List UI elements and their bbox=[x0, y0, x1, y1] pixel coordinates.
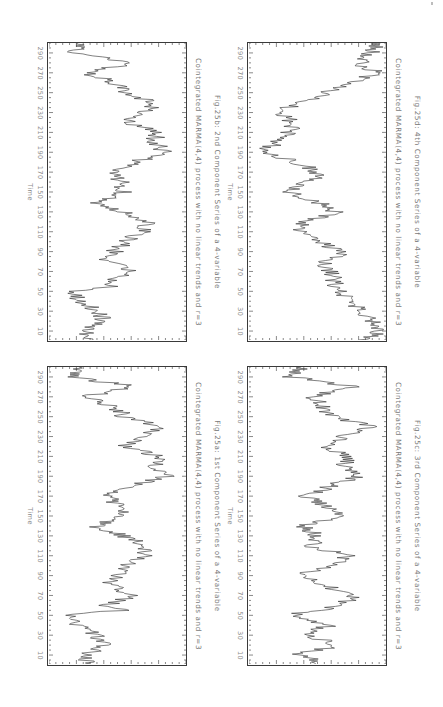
x-tick-label: 250 bbox=[236, 86, 244, 100]
x-tick-label: 130 bbox=[36, 205, 44, 219]
x-tick-label: 90 bbox=[36, 247, 44, 256]
figure-title: Fig.25b: 2nd Component Series of a 4-var… bbox=[213, 42, 222, 342]
x-tick-label: 210 bbox=[36, 126, 44, 140]
rotated-figure: Fig.25b: 2nd Component Series of a 4-var… bbox=[22, 42, 222, 342]
x-tick-label: 110 bbox=[36, 549, 44, 563]
x-tick-label: 50 bbox=[236, 287, 244, 296]
x-tick-label: 290 bbox=[236, 371, 244, 385]
x-tick-label: 210 bbox=[36, 450, 44, 464]
x-tick-label: 270 bbox=[236, 390, 244, 404]
x-tick-label: 130 bbox=[236, 205, 244, 219]
rotated-figure: Fig.25d: 4th Component Series of a 4-var… bbox=[222, 42, 422, 342]
x-tick-label: 190 bbox=[36, 470, 44, 484]
x-tick-label: 50 bbox=[236, 611, 244, 620]
x-tick-label: 10 bbox=[236, 651, 244, 660]
x-axis-label: Time bbox=[226, 366, 234, 666]
x-tick-label: 70 bbox=[236, 591, 244, 600]
x-tick-label: 70 bbox=[36, 591, 44, 600]
plot-area bbox=[47, 366, 187, 666]
x-tick-label: 30 bbox=[36, 307, 44, 316]
x-tick-label: 130 bbox=[236, 529, 244, 543]
x-tick-label: 270 bbox=[36, 66, 44, 80]
x-tick-label: 250 bbox=[36, 410, 44, 424]
x-tick-label: 230 bbox=[36, 430, 44, 444]
x-tick-label: 170 bbox=[36, 490, 44, 504]
x-axis-label: Time bbox=[26, 42, 34, 342]
page-corner-mark bbox=[431, 2, 433, 5]
x-tick-label: 290 bbox=[36, 371, 44, 385]
x-tick-label: 190 bbox=[36, 146, 44, 160]
figure-subtitle: Cointegrated MARMA(4,4) process with no … bbox=[194, 42, 203, 342]
x-tick-labels: 1030507090110130150170190210230250270290 bbox=[234, 366, 244, 666]
figure-title: Fig.25d: 4th Component Series of a 4-var… bbox=[413, 42, 422, 342]
x-tick-label: 190 bbox=[236, 146, 244, 160]
line-series bbox=[49, 367, 186, 664]
x-tick-label: 270 bbox=[36, 390, 44, 404]
x-tick-label: 90 bbox=[36, 571, 44, 580]
x-tick-label: 10 bbox=[36, 327, 44, 336]
x-axis-label: Time bbox=[226, 42, 234, 342]
x-tick-label: 90 bbox=[236, 571, 244, 580]
x-tick-label: 110 bbox=[36, 225, 44, 239]
figure-subtitle: Cointegrated MARMA(4,4) process with no … bbox=[394, 42, 403, 342]
x-axis-label: Time bbox=[26, 366, 34, 666]
x-tick-label: 170 bbox=[236, 490, 244, 504]
line-series bbox=[49, 43, 186, 340]
x-tick-label: 10 bbox=[236, 327, 244, 336]
x-tick-labels: 1030507090110130150170190210230250270290 bbox=[34, 42, 44, 342]
x-tick-label: 190 bbox=[236, 470, 244, 484]
plot-area bbox=[47, 42, 187, 342]
x-tick-label: 230 bbox=[236, 430, 244, 444]
x-tick-label: 30 bbox=[236, 631, 244, 640]
x-tick-label: 110 bbox=[236, 549, 244, 563]
x-tick-label: 250 bbox=[36, 86, 44, 100]
x-tick-label: 230 bbox=[236, 106, 244, 120]
x-tick-label: 10 bbox=[36, 651, 44, 660]
figure-subtitle: Cointegrated MARMA(4,4) process with no … bbox=[394, 366, 403, 666]
x-tick-label: 170 bbox=[36, 166, 44, 180]
x-tick-label: 70 bbox=[236, 267, 244, 276]
x-tick-labels: 1030507090110130150170190210230250270290 bbox=[234, 42, 244, 342]
x-tick-label: 290 bbox=[36, 47, 44, 61]
x-tick-label: 270 bbox=[236, 66, 244, 80]
x-tick-label: 150 bbox=[36, 186, 44, 200]
x-tick-label: 150 bbox=[36, 510, 44, 524]
line-series bbox=[249, 367, 386, 664]
plot-area bbox=[247, 366, 387, 666]
x-tick-label: 30 bbox=[236, 307, 244, 316]
x-tick-label: 150 bbox=[236, 510, 244, 524]
figure-title: Fig.25c: 3rd Component Series of a 4-var… bbox=[413, 366, 422, 666]
x-tick-label: 150 bbox=[236, 186, 244, 200]
rotated-figure: Fig.25a: 1st Component Series of a 4-var… bbox=[22, 366, 222, 666]
x-tick-label: 90 bbox=[236, 247, 244, 256]
x-tick-labels: 1030507090110130150170190210230250270290 bbox=[34, 366, 44, 666]
x-tick-label: 230 bbox=[36, 106, 44, 120]
x-tick-label: 50 bbox=[36, 611, 44, 620]
x-tick-label: 30 bbox=[36, 631, 44, 640]
x-tick-label: 130 bbox=[36, 529, 44, 543]
x-tick-label: 210 bbox=[236, 126, 244, 140]
plot-area bbox=[247, 42, 387, 342]
x-tick-label: 70 bbox=[36, 267, 44, 276]
x-tick-label: 250 bbox=[236, 410, 244, 424]
x-tick-label: 110 bbox=[236, 225, 244, 239]
x-tick-label: 50 bbox=[36, 287, 44, 296]
figure-title: Fig.25a: 1st Component Series of a 4-var… bbox=[213, 366, 222, 666]
x-tick-label: 210 bbox=[236, 450, 244, 464]
x-tick-label: 290 bbox=[236, 47, 244, 61]
line-series bbox=[249, 43, 386, 340]
rotated-figure: Fig.25c: 3rd Component Series of a 4-var… bbox=[222, 366, 422, 666]
x-tick-label: 170 bbox=[236, 166, 244, 180]
figure-subtitle: Cointegrated MARMA(4,4) process with no … bbox=[194, 366, 203, 666]
